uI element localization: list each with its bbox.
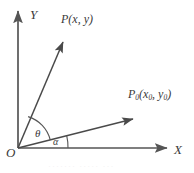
point-p-label: P(x, y): [61, 13, 93, 25]
point-p0-label-close: ): [167, 87, 171, 101]
angle-alpha-label: α: [53, 137, 58, 147]
diagram-canvas: [0, 0, 194, 173]
point-p0-label-comma: , y: [152, 87, 163, 101]
origin-label: O: [6, 146, 15, 159]
point-p0-label-sub1: 0: [135, 93, 139, 102]
point-p0-label-sub3: 0: [163, 93, 167, 102]
point-p0-label-mid: (x: [139, 87, 148, 101]
coordinate-vector-diagram: Y X O P(x, y) P0(x0, y0) θ α ······· ···…: [0, 0, 194, 173]
figure-caption: ······· ····· ···: [0, 163, 194, 173]
vector-op-line: [18, 42, 63, 148]
angle-alpha-arc: [67, 136, 68, 148]
angle-theta-label: θ: [35, 128, 40, 139]
point-p0-label: P0(x0, y0): [128, 88, 171, 100]
point-p0-label-sub2: 0: [148, 93, 152, 102]
y-axis-label: Y: [30, 8, 37, 21]
x-axis-label: X: [174, 143, 182, 156]
figure-caption-text: ······· ····· ···: [48, 163, 114, 171]
